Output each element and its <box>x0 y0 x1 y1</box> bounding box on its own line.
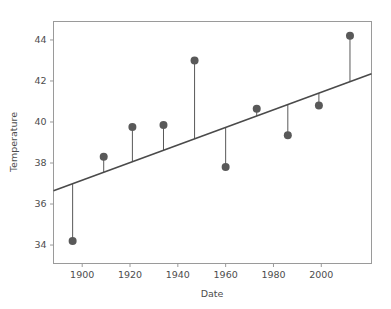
x-tick-label: 1920 <box>118 269 142 280</box>
y-tick-label: 36 <box>34 198 46 209</box>
x-axis-title: Date <box>201 288 224 299</box>
data-point <box>69 237 77 245</box>
data-point <box>128 123 136 131</box>
x-tick-label: 1900 <box>70 269 94 280</box>
y-tick-label: 34 <box>34 239 46 250</box>
chart-background <box>0 0 391 309</box>
data-point <box>284 131 292 139</box>
data-point <box>315 102 323 110</box>
x-tick-label: 2000 <box>309 269 333 280</box>
data-point <box>253 105 261 113</box>
temperature-scatter-chart: 343638404244 190019201940196019802000 Da… <box>0 0 391 309</box>
y-tick-label: 42 <box>34 75 46 86</box>
y-tick-label: 40 <box>34 116 46 127</box>
data-point <box>346 32 354 40</box>
y-tick-label: 44 <box>34 34 46 45</box>
x-tick-label: 1940 <box>166 269 190 280</box>
data-point <box>100 153 108 161</box>
x-tick-label: 1980 <box>261 269 285 280</box>
data-point <box>222 163 230 171</box>
y-tick-label: 38 <box>34 157 46 168</box>
data-point <box>159 121 167 129</box>
y-axis-title: Temperature <box>8 112 19 173</box>
data-point <box>191 56 199 64</box>
x-tick-label: 1960 <box>214 269 238 280</box>
chart-container: 343638404244 190019201940196019802000 Da… <box>0 0 391 309</box>
